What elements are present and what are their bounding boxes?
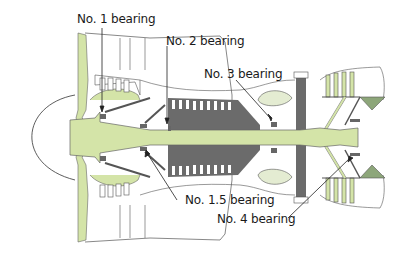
fan-blade-lower: [76, 147, 92, 242]
label-no4-bearing: No. 4 bearing: [217, 212, 295, 226]
label-no1-5-bearing: No. 1.5 bearing: [185, 193, 274, 207]
combustor-upper: [258, 91, 292, 106]
bearing-no3: [271, 122, 277, 127]
bearing-no2: [168, 126, 171, 131]
engine-diagram: No. 1 bearing No. 2 bearing No. 3 bearin…: [0, 0, 403, 260]
bearing-no4: [350, 119, 360, 122]
label-no1-bearing: No. 1 bearing: [77, 12, 155, 26]
label-no3-bearing: No. 3 bearing: [204, 67, 282, 81]
spinner-outline: [32, 95, 75, 180]
bearing-no1: [100, 114, 106, 119]
label-no2-bearing: No. 2 bearing: [166, 34, 244, 48]
fan-blade-upper: [76, 33, 92, 128]
combustor-lower: [258, 169, 292, 184]
